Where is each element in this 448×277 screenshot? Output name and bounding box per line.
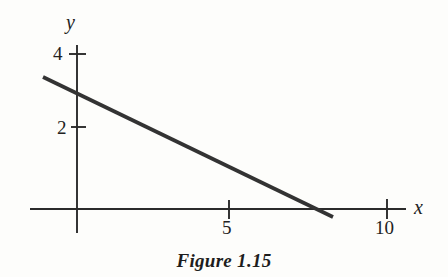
x-tick-label-5: 5	[222, 218, 232, 237]
figure-container: y x 4 2 5 10 Figure 1.15	[0, 0, 448, 277]
x-axis-label: x	[414, 197, 423, 217]
x-tick-label-10: 10	[375, 218, 394, 237]
y-axis-label: y	[66, 12, 75, 32]
data-line-series	[43, 77, 333, 217]
y-tick-label-4: 4	[53, 44, 63, 63]
y-tick-label-2: 2	[57, 118, 67, 137]
figure-caption: Figure 1.15	[0, 250, 448, 272]
